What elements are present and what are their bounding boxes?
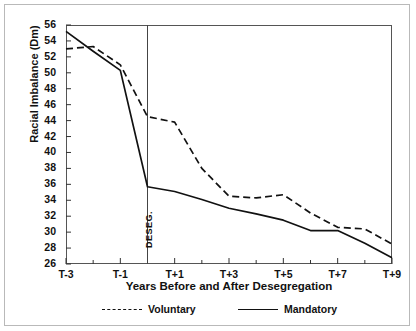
x-tick-label: T+7 (313, 268, 363, 280)
chart-legend: Voluntary Mandatory (66, 300, 392, 318)
y-tick-label: 54 (30, 34, 56, 46)
data-series-layer (66, 31, 392, 257)
y-tick-label: 48 (30, 82, 56, 94)
y-tick-label: 44 (30, 114, 56, 126)
y-tick-label: 28 (30, 241, 56, 253)
legend-label-voluntary: Voluntary (148, 300, 196, 318)
legend-item-voluntary: Voluntary (102, 300, 196, 318)
series-line-voluntary (66, 47, 392, 245)
x-tick-label: T-3 (41, 268, 91, 280)
chart-screenshot: Racial Imbalance (Dm) Years Before and A… (0, 0, 416, 331)
y-tick-label: 38 (30, 161, 56, 173)
y-tick-label: 34 (30, 193, 56, 205)
y-tick-label: 52 (30, 50, 56, 62)
x-tick-label: T+5 (258, 268, 308, 280)
axis-ticks (66, 25, 392, 264)
x-axis-title: Years Before and After Desegregation (66, 280, 392, 292)
y-tick-label: 46 (30, 98, 56, 110)
legend-swatch-solid (238, 304, 278, 314)
series-line-mandatory (66, 31, 392, 257)
y-tick-label: 30 (30, 225, 56, 237)
legend-label-mandatory: Mandatory (284, 300, 337, 318)
x-tick-label: T-1 (95, 268, 145, 280)
legend-item-mandatory: Mandatory (238, 300, 337, 318)
y-tick-label: 36 (30, 177, 56, 189)
y-tick-label: 50 (30, 66, 56, 78)
y-tick-label: 40 (30, 145, 56, 157)
legend-swatch-dashed (102, 304, 142, 314)
x-tick-label: T+9 (367, 268, 416, 280)
y-tick-label: 42 (30, 130, 56, 142)
desegregation-label: DESEG. (144, 211, 154, 248)
x-tick-label: T+1 (150, 268, 200, 280)
y-tick-label: 56 (30, 18, 56, 30)
y-tick-label: 32 (30, 209, 56, 221)
x-tick-label: T+3 (204, 268, 254, 280)
